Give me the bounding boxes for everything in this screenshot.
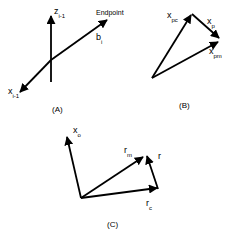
caption-b: (B)	[179, 102, 190, 110]
caption-c: (C)	[107, 221, 118, 229]
label-endpoint: Endpoint	[96, 8, 124, 17]
label-x: xi-1	[8, 87, 19, 101]
panel-c-vectors	[67, 137, 158, 198]
r-arrow	[147, 156, 158, 189]
label-rm: rm	[124, 146, 132, 160]
vector-diagram	[0, 0, 229, 235]
label-r: r	[158, 152, 161, 161]
label-xp: xp	[207, 17, 215, 31]
label-xpm: xpm	[209, 47, 222, 61]
label-xpc: xpc	[167, 11, 178, 25]
label-xo: xo	[73, 126, 81, 140]
panel-a-vectors	[20, 16, 107, 92]
xo-arrow	[67, 137, 81, 198]
caption-a: (A)	[52, 106, 63, 114]
label-rc: rc	[146, 199, 152, 213]
label-b: bi	[96, 33, 102, 47]
label-z: zi-1	[54, 7, 65, 21]
x-axis-arrow	[20, 60, 51, 92]
